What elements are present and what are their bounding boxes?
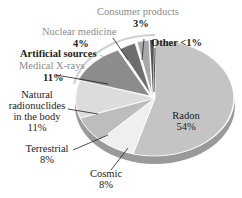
radon-name: Radon: [166, 110, 206, 121]
natural-line1: Natural: [4, 89, 70, 100]
pct-consumer-products: 3%: [133, 18, 149, 29]
label-natural-radionuclides: Natural radionuclides in the body 11%: [4, 89, 70, 133]
terrestrial-pct: 8%: [22, 154, 72, 165]
label-other: Other <1%: [151, 37, 202, 48]
pct-medical-xrays: 11%: [43, 72, 63, 83]
label-terrestrial: Terrestrial 8%: [22, 143, 72, 165]
natural-line2: radionuclides: [4, 100, 70, 111]
natural-pct: 11%: [4, 122, 70, 133]
label-medical-xrays: Medical X-rays: [19, 60, 85, 71]
label-consumer-products: Consumer products: [97, 6, 179, 17]
label-radon: Radon 54%: [166, 110, 206, 132]
cosmic-name: Cosmic: [86, 168, 126, 179]
radon-pct: 54%: [166, 121, 206, 132]
natural-line3: in the body: [4, 111, 70, 122]
label-cosmic: Cosmic 8%: [86, 168, 126, 190]
label-artificial-sources: Artificial sources: [20, 48, 97, 59]
label-nuclear-medicine: Nuclear medicine: [42, 26, 116, 37]
terrestrial-name: Terrestrial: [22, 143, 72, 154]
cosmic-pct: 8%: [86, 179, 126, 190]
